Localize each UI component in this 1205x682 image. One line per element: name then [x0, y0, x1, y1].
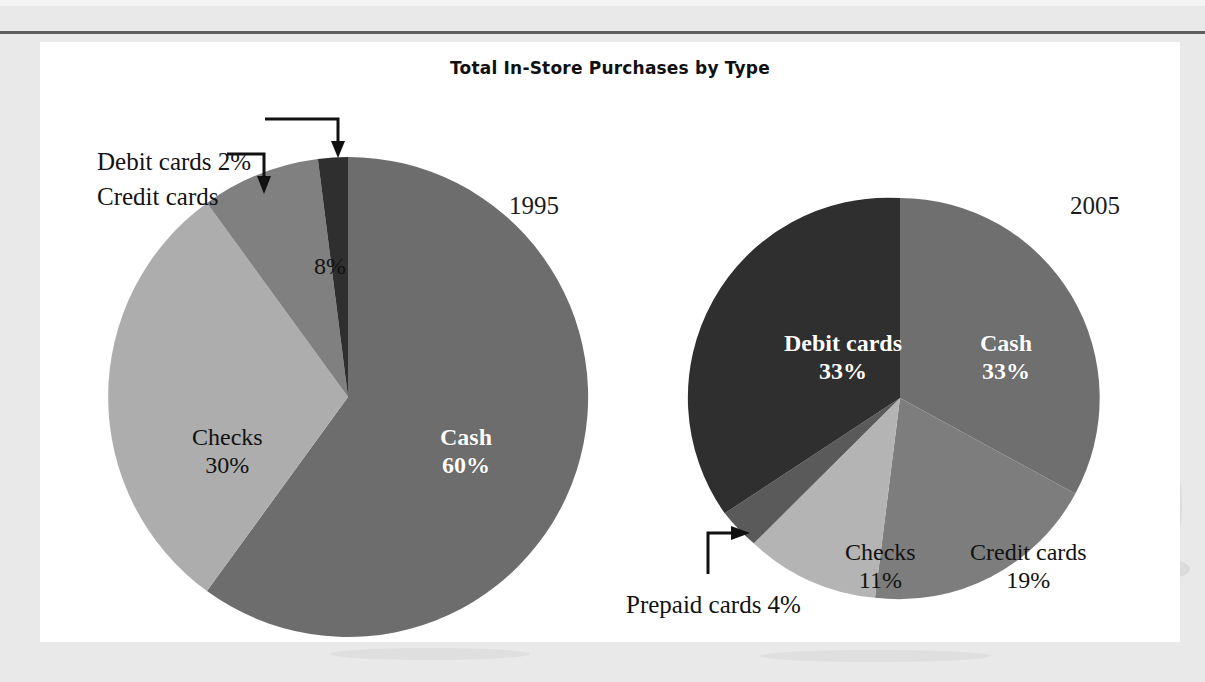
slice-label-value: 19% — [970, 567, 1087, 595]
slice-label-name: Checks — [192, 424, 263, 452]
scan-smudge — [330, 648, 530, 660]
slice-label-value: 11% — [845, 567, 916, 595]
figure-panel: Total In-Store Purchases by Type — [40, 42, 1180, 642]
slice-label-name: Credit cards — [970, 539, 1087, 567]
slice-label-cash-1995: Cash 60% — [440, 424, 492, 480]
slice-label-name: Debit cards — [784, 330, 902, 358]
slice-label-value: 60% — [440, 452, 492, 480]
slice-label-credit-cards-1995: 8% — [314, 253, 346, 281]
figure-page: Total In-Store Purchases by Type — [0, 0, 1205, 682]
slice-label-value: 30% — [192, 452, 263, 480]
slice-label-cash-2005: Cash 33% — [980, 330, 1032, 386]
slice-label-value: 33% — [980, 358, 1032, 386]
year-label-1995: 1995 — [509, 192, 559, 220]
slice-label-value: 33% — [784, 358, 902, 386]
slice-label-credit-cards-2005: Credit cards 19% — [970, 539, 1087, 595]
pie-1995 — [108, 157, 588, 637]
page-top-rule — [0, 31, 1205, 34]
slice-label-name: Cash — [440, 424, 492, 452]
callout-prepaid-cards-2005: Prepaid cards 4% — [626, 591, 801, 619]
year-label-2005: 2005 — [1070, 192, 1120, 220]
scan-smudge — [760, 650, 990, 662]
page-top-highlight — [0, 0, 1205, 6]
slice-label-debit-cards-2005: Debit cards 33% — [784, 330, 902, 386]
callout-debit-cards-1995: Debit cards 2% — [97, 148, 251, 176]
slice-label-name: Cash — [980, 330, 1032, 358]
leader-prepaid-cards-2005 — [708, 533, 732, 574]
slice-label-checks-2005: Checks 11% — [845, 539, 916, 595]
slice-label-checks-1995: Checks 30% — [192, 424, 263, 480]
leader-arrowhead-debit-1995 — [331, 141, 345, 158]
callout-credit-cards-1995: Credit cards — [97, 183, 218, 211]
leader-debit-cards-1995 — [265, 119, 338, 142]
slice-label-value: 8% — [314, 253, 346, 281]
slice-label-name: Checks — [845, 539, 916, 567]
